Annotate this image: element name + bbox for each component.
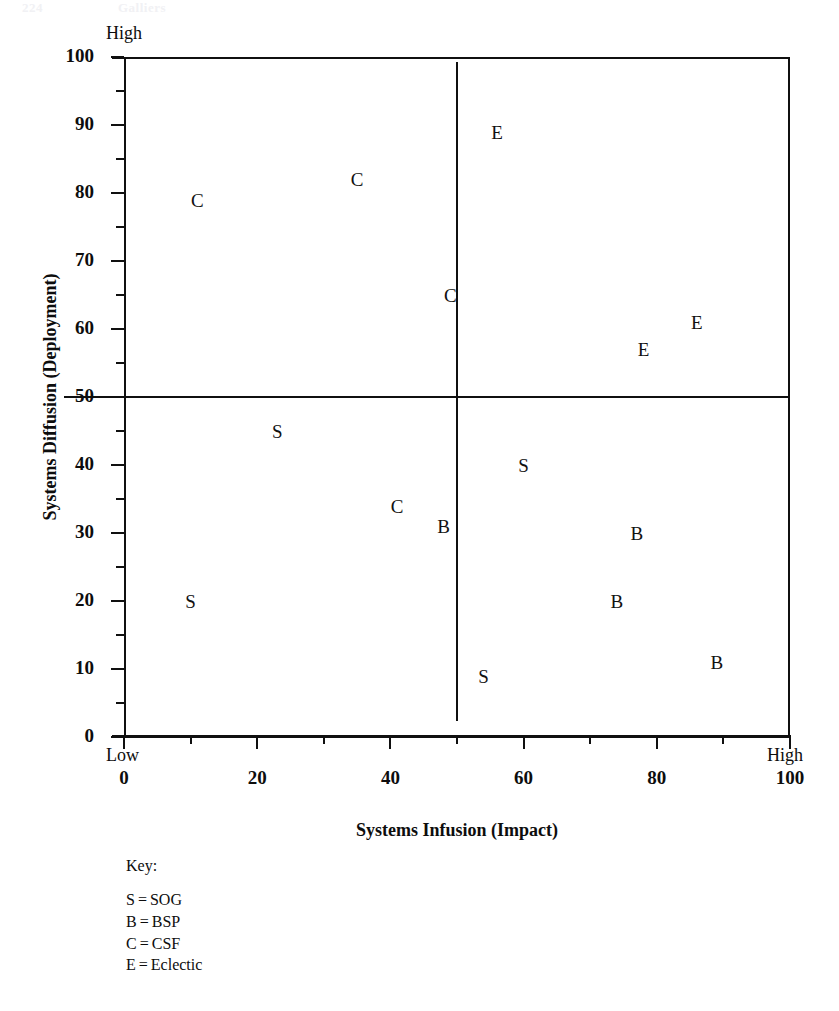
key-symbol: C bbox=[126, 935, 137, 952]
plot-area: 0102030405060708090100 020406080100 CCCC… bbox=[124, 57, 790, 737]
y-tick-70: 70 bbox=[111, 260, 124, 262]
x-tick-40 bbox=[389, 735, 391, 749]
key-symbol: B bbox=[126, 913, 137, 930]
data-point-s: S bbox=[272, 422, 283, 441]
quadrant-divider-vertical bbox=[456, 62, 458, 721]
x-tick-label-100: 100 bbox=[776, 767, 805, 789]
y-minor-tick-85 bbox=[116, 158, 124, 160]
key-symbol: S bbox=[126, 891, 135, 908]
data-point-e: E bbox=[638, 340, 650, 359]
key-equals: = bbox=[140, 935, 149, 952]
data-point-s: S bbox=[478, 666, 489, 685]
x-axis-low-label: Low bbox=[106, 745, 139, 766]
x-tick-label-0: 0 bbox=[119, 767, 129, 789]
x-tick-label-20: 20 bbox=[248, 767, 267, 789]
key-entry-bsp: B=BSP bbox=[126, 911, 202, 933]
y-minor-tick-5 bbox=[116, 702, 124, 704]
y-tick-90: 90 bbox=[111, 124, 124, 126]
x-tick-60 bbox=[523, 735, 525, 749]
x-tick-80 bbox=[656, 735, 658, 749]
key-entry-eclectic: E=Eclectic bbox=[126, 954, 202, 976]
y-axis-high-label: High bbox=[106, 23, 142, 44]
key-equals: = bbox=[140, 913, 149, 930]
x-tick-20 bbox=[256, 735, 258, 749]
data-point-s: S bbox=[518, 456, 529, 475]
y-minor-tick-45 bbox=[116, 430, 124, 432]
y-tick-80: 80 bbox=[111, 192, 124, 194]
key-equals: = bbox=[139, 956, 148, 973]
data-point-e: E bbox=[691, 313, 703, 332]
key-name: BSP bbox=[152, 913, 180, 930]
y-minor-tick-15 bbox=[116, 634, 124, 636]
x-minor-tick-30 bbox=[323, 735, 325, 744]
x-minor-tick-90 bbox=[722, 735, 724, 744]
y-tick-10: 10 bbox=[111, 668, 124, 670]
data-point-e: E bbox=[491, 122, 503, 141]
data-point-b: B bbox=[630, 524, 643, 543]
y-tick-label-50: 50 bbox=[75, 385, 94, 407]
x-axis-title: Systems Infusion (Impact) bbox=[356, 820, 558, 841]
key-entries: S=SOGB=BSPC=CSFE=Eclectic bbox=[126, 889, 202, 976]
y-tick-label-30: 30 bbox=[75, 521, 94, 543]
key-name: Eclectic bbox=[151, 956, 203, 973]
y-minor-tick-25 bbox=[116, 566, 124, 568]
y-tick-100: 100 bbox=[111, 56, 124, 58]
y-tick-label-40: 40 bbox=[75, 453, 94, 475]
y-tick-label-0: 0 bbox=[85, 725, 95, 747]
y-tick-60: 60 bbox=[111, 328, 124, 330]
scatter-chart-figure: 0102030405060708090100 020406080100 CCCC… bbox=[0, 0, 839, 1011]
x-tick-label-80: 80 bbox=[647, 767, 666, 789]
x-minor-tick-70 bbox=[589, 735, 591, 744]
y-tick-20: 20 bbox=[111, 600, 124, 602]
y-axis-title: Systems Diffusion (Deployment) bbox=[40, 274, 61, 521]
y-tick-label-70: 70 bbox=[75, 249, 94, 271]
key-entry-csf: C=CSF bbox=[126, 933, 202, 955]
key-symbol: E bbox=[126, 956, 136, 973]
x-tick-label-60: 60 bbox=[514, 767, 533, 789]
axis-frame-top bbox=[112, 57, 790, 59]
key-title: Key: bbox=[126, 857, 202, 875]
data-point-c: C bbox=[391, 496, 404, 515]
y-tick-label-80: 80 bbox=[75, 181, 94, 203]
data-point-b: B bbox=[710, 653, 723, 672]
y-minor-tick-75 bbox=[116, 226, 124, 228]
y-tick-50: 50 bbox=[111, 396, 124, 398]
x-axis-line bbox=[112, 735, 790, 738]
y-tick-label-100: 100 bbox=[66, 45, 95, 67]
y-tick-40: 40 bbox=[111, 464, 124, 466]
key-name: CSF bbox=[152, 935, 180, 952]
y-tick-label-10: 10 bbox=[75, 657, 94, 679]
key-entry-sog: S=SOG bbox=[126, 889, 202, 911]
y-tick-label-90: 90 bbox=[75, 113, 94, 135]
key-name: SOG bbox=[150, 891, 182, 908]
y-tick-label-20: 20 bbox=[75, 589, 94, 611]
key-equals: = bbox=[138, 891, 147, 908]
y-tick-30: 30 bbox=[111, 532, 124, 534]
x-tick-label-40: 40 bbox=[381, 767, 400, 789]
y-tick-label-60: 60 bbox=[75, 317, 94, 339]
chart-key: Key: S=SOGB=BSPC=CSFE=Eclectic bbox=[126, 857, 202, 976]
quadrant-divider-horizontal bbox=[64, 396, 790, 398]
x-minor-tick-50 bbox=[456, 735, 458, 744]
data-point-s: S bbox=[185, 592, 196, 611]
data-point-b: B bbox=[610, 592, 623, 611]
y-minor-tick-55 bbox=[116, 362, 124, 364]
data-point-c: C bbox=[351, 170, 364, 189]
y-minor-tick-95 bbox=[116, 90, 124, 92]
y-minor-tick-35 bbox=[116, 498, 124, 500]
y-minor-tick-65 bbox=[116, 294, 124, 296]
data-point-c: C bbox=[444, 286, 457, 305]
data-point-c: C bbox=[191, 190, 204, 209]
x-axis-high-label: High bbox=[767, 745, 803, 766]
data-point-b: B bbox=[437, 517, 450, 536]
x-minor-tick-10 bbox=[190, 735, 192, 744]
